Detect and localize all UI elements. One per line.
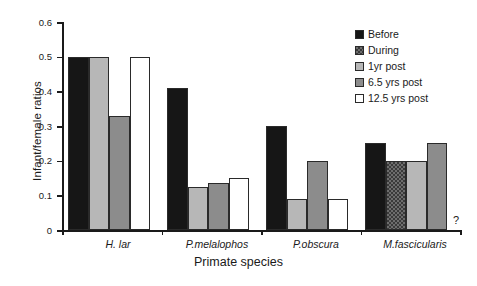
legend-label: Before (368, 29, 399, 40)
legend-label: 1yr post (368, 61, 405, 72)
y-tick-label: 0.2 (39, 157, 52, 167)
bar (406, 161, 427, 230)
bar (130, 57, 151, 230)
chart-legend: BeforeDuring1yr post6.5 yrs post12.5 yrs… (355, 29, 428, 104)
legend-label: 6.5 yrs post (368, 77, 422, 88)
legend-label: During (368, 45, 399, 56)
bar (109, 116, 130, 230)
legend-swatch-icon (355, 78, 364, 87)
legend-item[interactable]: Before (355, 29, 428, 40)
legend-swatch-icon (355, 62, 364, 71)
y-tick: 0.4 (57, 91, 62, 93)
legend-item[interactable]: 12.5 yrs post (355, 93, 428, 104)
bar (328, 199, 349, 230)
y-tick-label: 0.6 (39, 18, 52, 28)
legend-item[interactable]: During (355, 45, 428, 56)
legend-swatch-icon (355, 46, 364, 55)
x-tick (62, 230, 64, 235)
bar (427, 143, 448, 230)
bar (365, 143, 386, 230)
bar (287, 199, 308, 230)
x-group-label: P.obscura (293, 238, 339, 250)
y-tick-label: 0.4 (39, 87, 52, 97)
y-tick: 0.6 (57, 22, 62, 24)
bar (188, 187, 209, 230)
y-tick: 0.3 (57, 126, 62, 128)
bar (167, 88, 188, 230)
y-tick: 0.5 (57, 57, 62, 59)
y-tick: 0.1 (57, 195, 62, 197)
bar-chart: Infant/female ratios 00.10.20.30.40.50.6… (0, 0, 477, 286)
bar (208, 183, 229, 230)
y-tick-label: 0 (47, 226, 52, 236)
y-tick-label: 0.3 (39, 122, 52, 132)
x-group-label: P.melalophos (186, 238, 248, 250)
bar (68, 57, 89, 230)
legend-swatch-icon (355, 94, 364, 103)
bar (89, 57, 110, 230)
x-tick (460, 230, 462, 235)
legend-label: 12.5 yrs post (368, 93, 428, 104)
legend-item[interactable]: 1yr post (355, 61, 428, 72)
y-tick-label: 0.5 (39, 53, 52, 63)
legend-swatch-icon (355, 30, 364, 39)
x-tick (261, 230, 263, 235)
x-group-label: M.fascicularis (383, 238, 447, 250)
x-tick (162, 230, 164, 235)
y-tick: 0.2 (57, 161, 62, 163)
missing-data-marker: ? (453, 215, 459, 226)
bar (229, 178, 250, 230)
bar (266, 126, 287, 230)
y-axis-line (62, 22, 64, 230)
bar (386, 161, 407, 230)
legend-item[interactable]: 6.5 yrs post (355, 77, 428, 88)
y-tick-label: 0.1 (39, 191, 52, 201)
x-tick (361, 230, 363, 235)
x-axis-title: Primate species (0, 255, 477, 269)
x-group-label: H. lar (105, 238, 130, 250)
bar (307, 161, 328, 230)
